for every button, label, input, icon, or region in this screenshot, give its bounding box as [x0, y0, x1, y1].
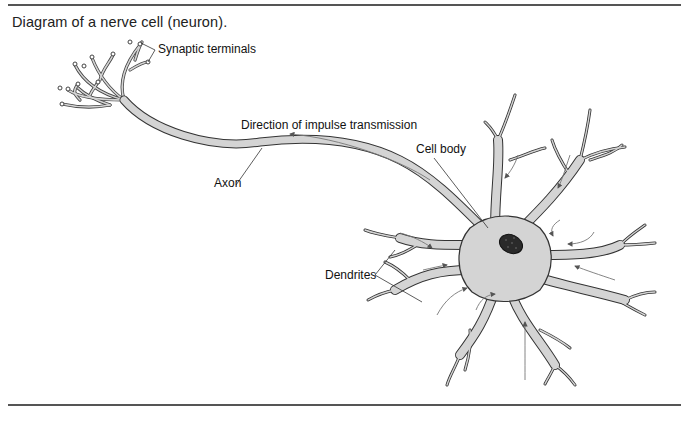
label-dendrites: Dendrites [325, 268, 376, 282]
label-cell-body: Cell body [416, 142, 466, 156]
neuron-diagram [0, 0, 687, 423]
label-axon: Axon [214, 176, 241, 190]
leader-lines [141, 43, 488, 302]
label-direction-of-impulse: Direction of impulse transmission [241, 118, 417, 132]
cell-body [459, 216, 551, 302]
bottom-rule [8, 404, 681, 406]
label-synaptic-terminals: Synaptic terminals [158, 42, 256, 56]
